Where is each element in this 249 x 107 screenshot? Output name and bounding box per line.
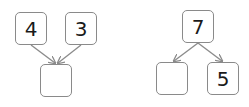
addend-box-3: 3: [65, 12, 97, 45]
arrow-7-to-5: [198, 43, 222, 61]
arrow-3-to-sum: [58, 45, 81, 63]
part-box-5: 5: [207, 62, 239, 95]
part-answer-box[interactable]: [156, 62, 188, 95]
arrow-4-to-sum: [31, 45, 55, 63]
whole-box-7: 7: [182, 10, 214, 43]
arrow-7-to-blank: [174, 43, 198, 61]
sum-answer-box[interactable]: [40, 64, 72, 97]
addend-box-4: 4: [15, 12, 47, 45]
